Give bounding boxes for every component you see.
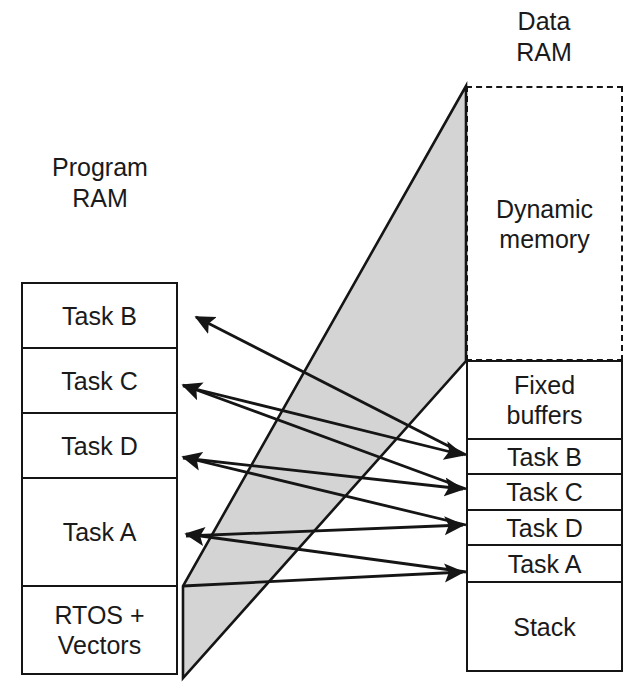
program-ram-block-task-c-label: Task C	[61, 366, 137, 396]
data-ram-block-task-c-label: Task C	[506, 477, 582, 507]
program-ram-block-rtos-vectors[interactable]: RTOS + Vectors	[21, 585, 178, 675]
data-ram-block-stack[interactable]: Stack	[466, 581, 623, 672]
data-ram-block-task-b-label: Task B	[507, 442, 582, 472]
data-ram-block-task-d-label: Task D	[506, 513, 582, 543]
data-ram-block-task-c[interactable]: Task C	[466, 473, 623, 509]
data-ram-block-dynamic-memory-label: Dynamic memory	[496, 194, 593, 254]
program-ram-block-task-b[interactable]: Task B	[21, 282, 178, 347]
data-ram-block-task-b[interactable]: Task B	[466, 438, 623, 473]
program-ram-block-task-a-label: Task A	[63, 517, 137, 547]
program-ram-caption: Program RAM	[20, 152, 180, 214]
data-ram-block-fixed-buffers-label: Fixed buffers	[507, 370, 583, 430]
data-ram-block-task-a[interactable]: Task A	[466, 544, 623, 581]
data-ram-block-stack-label: Stack	[513, 612, 576, 642]
data-ram-block-task-d[interactable]: Task D	[466, 509, 623, 544]
data-ram-caption: Data RAM	[466, 6, 622, 68]
program-ram-block-rtos-vectors-label: RTOS + Vectors	[54, 600, 144, 660]
memory-map-diagram: Program RAM Task B Task C Task D Task A …	[0, 0, 643, 693]
program-ram-block-task-c[interactable]: Task C	[21, 347, 178, 412]
program-ram-block-task-b-label: Task B	[62, 301, 137, 331]
data-ram-block-dynamic-memory[interactable]: Dynamic memory	[466, 86, 623, 361]
data-ram-block-task-a-label: Task A	[508, 549, 582, 579]
program-ram-block-task-a[interactable]: Task A	[21, 477, 178, 585]
data-ram-block-fixed-buffers[interactable]: Fixed buffers	[466, 360, 623, 438]
program-ram-block-task-d[interactable]: Task D	[21, 412, 178, 477]
program-ram-block-task-d-label: Task D	[61, 431, 137, 461]
